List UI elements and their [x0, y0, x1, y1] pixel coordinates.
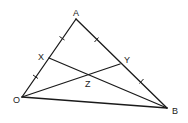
- segment-oy: [22, 64, 120, 97]
- label-z: Z: [85, 79, 91, 89]
- label-x: X: [38, 52, 44, 62]
- label-a: A: [73, 8, 79, 18]
- label-b: B: [172, 106, 178, 116]
- triangle-diagram: A X Y Z O B: [0, 0, 188, 123]
- label-o: O: [13, 95, 20, 105]
- label-y: Y: [124, 55, 130, 65]
- segment-ab: [76, 19, 167, 108]
